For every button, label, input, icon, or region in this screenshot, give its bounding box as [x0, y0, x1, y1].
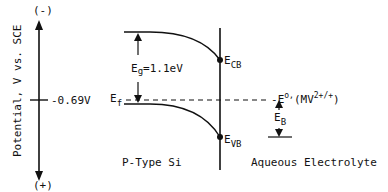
valence-band-label: EVB	[224, 134, 241, 145]
fermi-level-label: Ef	[110, 93, 122, 104]
axis-top-sign: (-)	[33, 5, 53, 16]
electrolyte-label: Aqueous Electrolyte	[251, 157, 377, 168]
evb-point	[217, 134, 223, 140]
eg-arrow-down-icon	[134, 95, 142, 103]
ecb-point	[217, 57, 223, 63]
semiconductor-label: P-Type Si	[122, 157, 182, 168]
redox-potential-label: -Eo,(MV2+/+)	[271, 94, 340, 105]
band-gap-label: Eg=1.1eV	[131, 63, 183, 74]
axis-title: Potential, V vs. SCE	[11, 25, 24, 157]
conduction-band-label: ECB	[224, 55, 241, 66]
valence-band-curve	[124, 104, 220, 137]
axis-tick-value: -0.69V	[51, 95, 91, 106]
eb-arrow-down-icon	[275, 129, 283, 137]
barrier-label: EB	[274, 112, 286, 123]
axis-bottom-sign: (+)	[33, 180, 53, 191]
axis-arrow-up-icon	[35, 20, 43, 30]
eg-arrow-up-icon	[134, 33, 142, 41]
